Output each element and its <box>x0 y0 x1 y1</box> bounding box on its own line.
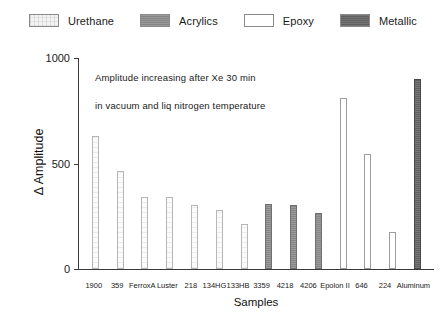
x-axis-title: Samples <box>78 296 434 308</box>
legend-swatch-metallic <box>340 14 370 27</box>
x-tick-label: 646 <box>355 281 368 290</box>
x-tick-label: 133HB <box>227 281 250 290</box>
bar-slot <box>133 58 158 269</box>
legend-item-metallic: Metallic <box>340 14 417 27</box>
legend-label-metallic: Metallic <box>379 15 417 27</box>
bar-slot <box>380 58 405 269</box>
bar <box>290 205 297 269</box>
y-axis-title: Δ Amplitude <box>32 129 46 196</box>
bar <box>191 205 198 269</box>
x-tick-label-slot: Luster <box>156 274 179 292</box>
legend-swatch-epoxy <box>244 14 274 27</box>
x-tick-label: Aluminum <box>397 281 430 290</box>
bar-slot <box>281 58 306 269</box>
bar-slot <box>207 58 232 269</box>
bar <box>414 79 421 269</box>
bar-slot <box>182 58 207 269</box>
x-tick-label-slot: 134HG <box>203 274 227 292</box>
legend-item-acrylics: Acrylics <box>140 14 218 27</box>
x-tick-label-slot: 4218 <box>273 274 296 292</box>
x-axis-tick-labels: 1900359FerroxALuster218134HG133HB3359421… <box>78 274 434 292</box>
bar-slot <box>256 58 281 269</box>
legend-label-epoxy: Epoxy <box>283 15 314 27</box>
bar <box>340 98 347 269</box>
x-tick-label-slot: 4206 <box>297 274 320 292</box>
x-tick-label: 134HG <box>203 281 227 290</box>
x-tick-label: FerroxA <box>129 281 156 290</box>
bar-slot <box>331 58 356 269</box>
x-tick-label: Epolon II <box>320 281 350 290</box>
bar-slot <box>157 58 182 269</box>
x-tick-label-slot: 3359 <box>250 274 273 292</box>
x-tick-label: 359 <box>111 281 124 290</box>
bar-series <box>79 58 434 269</box>
x-tick-label: 218 <box>185 281 198 290</box>
bar-slot <box>306 58 331 269</box>
x-tick-label-slot: Aluminum <box>397 274 430 292</box>
bar <box>241 224 248 269</box>
x-tick-label: 1900 <box>85 281 102 290</box>
x-tick-label: 4206 <box>300 281 317 290</box>
x-tick-label: 3359 <box>253 281 270 290</box>
bar-slot <box>232 58 257 269</box>
x-tick-label-slot: Epolon II <box>320 274 350 292</box>
bar-slot <box>356 58 381 269</box>
y-tick-label: 0 <box>64 263 70 275</box>
legend-swatch-acrylics <box>140 14 170 27</box>
x-tick-label: Luster <box>157 281 178 290</box>
legend-label-acrylics: Acrylics <box>179 15 218 27</box>
x-tick-label: 4218 <box>277 281 294 290</box>
chart-legend: Urethane Acrylics Epoxy Metallic <box>0 14 446 27</box>
x-tick-label: 224 <box>379 281 392 290</box>
x-tick-label-slot: 218 <box>179 274 202 292</box>
x-tick-label-slot: 224 <box>373 274 396 292</box>
y-tick-mark <box>74 269 79 270</box>
bar <box>216 210 223 269</box>
legend-swatch-urethane <box>29 14 59 27</box>
bar <box>364 154 371 269</box>
x-tick-label-slot: 133HB <box>226 274 249 292</box>
bar <box>141 197 148 269</box>
x-tick-label-slot: 359 <box>105 274 128 292</box>
plot-area: 05001000 Amplitude increasing after Xe 3… <box>78 58 434 270</box>
legend-item-urethane: Urethane <box>29 14 114 27</box>
legend-item-epoxy: Epoxy <box>244 14 314 27</box>
bar-slot <box>108 58 133 269</box>
legend-label-urethane: Urethane <box>68 15 114 27</box>
bar <box>389 232 396 269</box>
bar <box>92 136 99 269</box>
bar <box>315 213 322 269</box>
bar <box>265 204 272 269</box>
bar-slot <box>405 58 430 269</box>
y-tick-label: 1000 <box>46 52 70 64</box>
x-tick-label-slot: 1900 <box>82 274 105 292</box>
bar-slot <box>83 58 108 269</box>
bar <box>117 171 124 269</box>
y-tick-label: 500 <box>52 158 70 170</box>
x-tick-label-slot: 646 <box>350 274 373 292</box>
x-tick-label-slot: FerroxA <box>129 274 156 292</box>
bar <box>166 197 173 269</box>
